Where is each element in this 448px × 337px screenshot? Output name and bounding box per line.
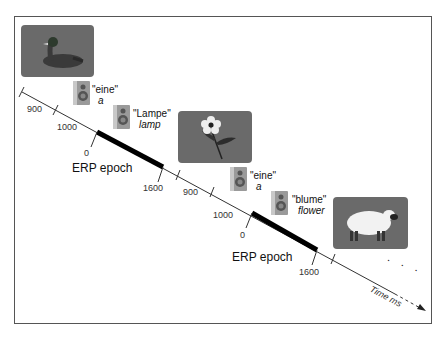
english-translation: a — [92, 95, 118, 106]
tick-label: 0 — [84, 148, 89, 158]
tick-label: 900 — [183, 187, 198, 197]
tick-label: 1600 — [299, 267, 319, 277]
speaker-icon — [113, 105, 130, 129]
word-label: "blume" flower — [292, 194, 326, 216]
tick-label: 900 — [27, 104, 42, 114]
german-word: "Lampe" — [133, 108, 171, 119]
epoch-bar-2 — [252, 213, 317, 250]
speaker-icon — [73, 81, 90, 105]
german-word: "blume" — [292, 194, 326, 205]
duck-picture — [21, 25, 94, 77]
flower-icon — [178, 111, 252, 163]
english-translation: a — [250, 181, 276, 192]
duck-icon — [21, 25, 94, 77]
arrow-head-icon — [417, 304, 426, 311]
german-word: "eine" — [92, 84, 118, 95]
english-translation: lamp — [133, 119, 171, 130]
word-label: "Lampe" lamp — [133, 108, 171, 130]
speaker-icon — [230, 167, 247, 191]
word-label: "eine" a — [92, 84, 118, 106]
tick-label: 1600 — [143, 183, 163, 193]
tick-label: 1000 — [57, 122, 77, 132]
epoch-label: ERP epoch — [72, 161, 133, 175]
sheep-picture — [333, 197, 408, 249]
speaker-icon — [271, 191, 288, 215]
tick-label: 1000 — [213, 210, 233, 220]
tick-label: 0 — [240, 230, 245, 240]
sheep-icon — [333, 197, 408, 249]
word-label: "eine" a — [250, 170, 276, 192]
english-translation: flower — [292, 205, 326, 216]
german-word: "eine" — [250, 170, 276, 181]
flower-picture — [178, 111, 252, 163]
epoch-label: ERP epoch — [232, 250, 293, 264]
